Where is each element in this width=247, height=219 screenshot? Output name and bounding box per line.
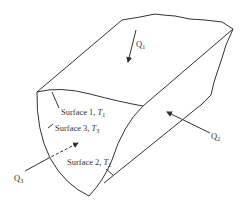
surface-1-label: Surface 1, T1	[61, 107, 105, 118]
surface-3-leader	[48, 124, 53, 128]
surface-1-leader	[52, 92, 59, 108]
surface-2-label: Surface 2, T2	[67, 157, 111, 168]
q3-label: Q3	[14, 173, 23, 184]
q2-label: Q2	[211, 131, 220, 142]
surface-3-label: Surface 3, T3	[55, 123, 99, 134]
q1-arrow	[128, 30, 136, 62]
enclosure-diagram: Q1 Q2 Q3 Surface 1, T1 Surface 3, T3 Sur…	[0, 0, 247, 219]
q1-label: Q1	[136, 39, 145, 50]
enclosure-edges	[37, 14, 233, 196]
surface-2-leader	[106, 169, 113, 175]
